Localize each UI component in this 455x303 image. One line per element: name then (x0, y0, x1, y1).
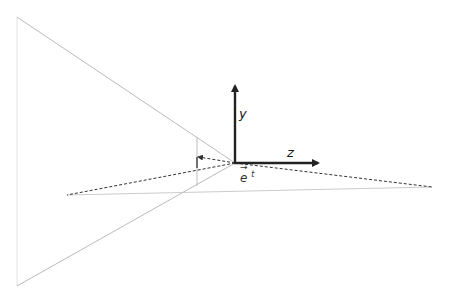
frustum-bottom-edge (17, 163, 235, 286)
vector-superscript: t (251, 170, 254, 179)
plane-line (67, 187, 432, 195)
dashed-ray-left (67, 163, 235, 195)
dashed-projection-arrow (199, 157, 235, 163)
vector-e-t-label: → e t (240, 170, 254, 185)
diagram-canvas (0, 0, 455, 303)
view-frustum (17, 17, 235, 286)
y-axis-label: y (239, 106, 247, 121)
dashed-ray-right (235, 163, 432, 187)
vector-arrow-glyph: → (240, 162, 248, 172)
z-axis-label: z (287, 145, 294, 160)
frustum-top-edge (17, 17, 235, 163)
vector-base: e (240, 171, 247, 185)
